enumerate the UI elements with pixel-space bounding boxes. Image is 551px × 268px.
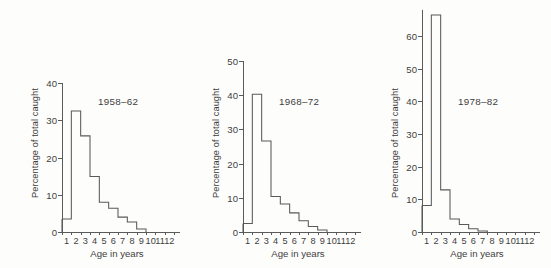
y-tick-label: 50	[227, 56, 238, 67]
y-tick-label: 0	[52, 227, 57, 238]
y-tick-label: 10	[227, 192, 238, 203]
chart-panel-1978-82: Percentage of total caught 0102030405060…	[364, 0, 551, 268]
y-tick-label: 40	[227, 90, 238, 101]
y-tick-label: 40	[406, 96, 417, 107]
plot-area: 01020304050123456789101112	[243, 61, 355, 232]
y-tick-label: 40	[46, 78, 57, 89]
histogram-outline	[422, 10, 542, 240]
y-axis-title: Percentage of total caught	[211, 58, 221, 228]
plot-area: 0102030405060123456789101112	[422, 10, 534, 232]
y-tick-label: 60	[406, 31, 417, 42]
x-axis-title: Age in years	[418, 248, 536, 259]
chart-panel-1968-72: Percentage of total caught 0102030405012…	[183, 0, 369, 268]
y-tick-label: 30	[227, 124, 238, 135]
y-axis-title: Percentage of total caught	[390, 58, 400, 228]
histogram-outline	[243, 61, 363, 240]
y-tick-label: 50	[406, 63, 417, 74]
x-axis-title: Age in years	[58, 248, 176, 259]
y-tick-label: 30	[406, 129, 417, 140]
histogram-step-line	[243, 94, 327, 232]
y-tick-label: 20	[406, 161, 417, 172]
histogram-step-line	[62, 111, 146, 232]
chart-title: 1958–62	[98, 96, 138, 107]
y-tick-label: 0	[233, 227, 238, 238]
y-tick-label: 20	[46, 152, 57, 163]
y-tick-label: 30	[46, 115, 57, 126]
chart-panel-1958-62: Percentage of total caught 0102030401234…	[0, 0, 186, 268]
y-tick-label: 0	[412, 227, 417, 238]
histogram-step-line	[422, 15, 487, 232]
figure-histograms: Percentage of total caught 0102030401234…	[0, 0, 551, 268]
y-tick-label: 20	[227, 158, 238, 169]
y-tick-label: 10	[406, 194, 417, 205]
chart-title: 1968–72	[279, 96, 319, 107]
y-tick-label: 10	[46, 189, 57, 200]
x-axis-title: Age in years	[239, 248, 357, 259]
chart-title: 1978–82	[458, 96, 498, 107]
y-axis-title: Percentage of total caught	[30, 58, 40, 228]
